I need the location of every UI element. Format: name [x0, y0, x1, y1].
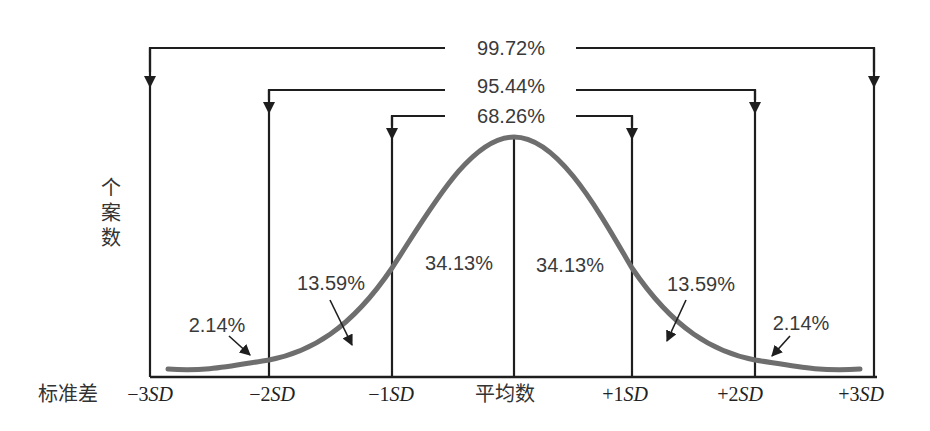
tick-minus3: −3SD — [127, 383, 173, 405]
region-label-l1: 34.13% — [425, 252, 493, 274]
normal-distribution-chart: 99.72% 95.44% 68.26% 2.14% 13.59% 34.13%… — [0, 0, 930, 431]
svg-text:+1SD: +1SD — [602, 383, 648, 405]
svg-text:−2SD: −2SD — [249, 383, 295, 405]
region-label-r1: 34.13% — [536, 254, 604, 276]
tick-plus3: +3SD — [838, 383, 884, 405]
x-axis-label: 标准差 — [38, 382, 98, 406]
region-label-l3: 2.14% — [189, 314, 246, 336]
tick-minus2: −2SD — [249, 383, 295, 405]
y-axis-label-char-1: 个 — [101, 176, 121, 200]
tick-plus1: +1SD — [602, 383, 648, 405]
sd-lines — [150, 48, 874, 377]
tick-plus2: +2SD — [717, 383, 763, 405]
pointer-arrows — [229, 300, 790, 356]
y-axis-label-char-2: 案 — [101, 201, 121, 225]
svg-text:+2SD: +2SD — [717, 383, 763, 405]
mean-label: 平均数 — [475, 382, 535, 406]
svg-text:−1SD: −1SD — [368, 383, 414, 405]
svg-text:−3SD: −3SD — [127, 383, 173, 405]
region-label-l2: 13.59% — [297, 272, 365, 294]
svg-text:+3SD: +3SD — [838, 383, 884, 405]
y-axis-label-char-3: 数 — [101, 226, 121, 250]
region-label-r3: 2.14% — [773, 312, 830, 334]
bracket-label-1sd: 68.26% — [477, 105, 545, 127]
region-label-r2: 13.59% — [667, 273, 735, 295]
bracket-label-3sd: 99.72% — [477, 37, 545, 59]
tick-minus1: −1SD — [368, 383, 414, 405]
bracket-label-2sd: 95.44% — [477, 75, 545, 97]
